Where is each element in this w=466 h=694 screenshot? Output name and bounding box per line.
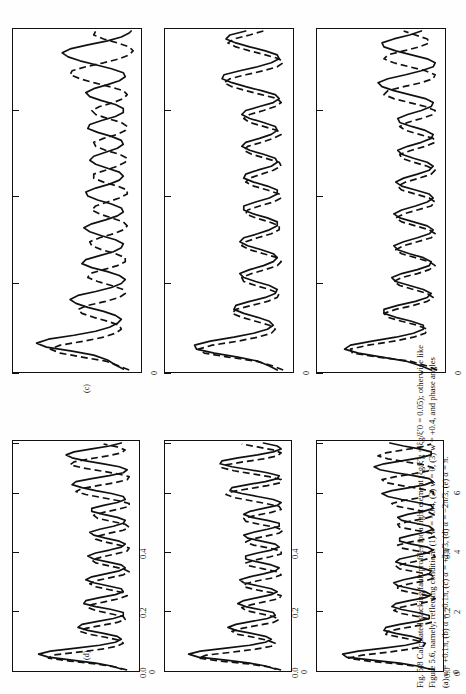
xlabel-depth-2: 2	[452, 610, 462, 614]
tick-bottom-left-1	[12, 671, 19, 672]
tick-top-right-4	[316, 110, 323, 111]
plot-curves-bottom-center	[165, 441, 291, 671]
tick-top-center-3	[164, 196, 171, 197]
caption-line-1: Fig. 5.8 Calculated stacking fault profi…	[414, 388, 426, 688]
caption-line-2: Figure 5.6, namely, reflecting condition…	[426, 388, 438, 688]
plot-panel-top-center	[164, 28, 294, 373]
ylabel-bottom-left-00: 0.0	[138, 667, 148, 678]
tick-bottom-right-3	[316, 552, 323, 553]
tick-top-left-4	[12, 110, 19, 111]
figure-caption: Fig. 5.8 Calculated stacking fault profi…	[414, 386, 451, 688]
plot-curves-bottom-left	[13, 441, 139, 671]
caption-line-3: (a) α = +0.1π, (b) α = −0.1π, (c) α = +2…	[439, 388, 451, 688]
plot-panel-bottom-center	[164, 440, 292, 672]
plot-curves-top-left	[13, 29, 141, 372]
ylabel-bottom-left-04: 0.4	[138, 548, 148, 559]
axis-zero-label-top-right: 0	[454, 371, 463, 375]
tick-top-center-4	[164, 110, 171, 111]
tick-top-left-2	[12, 283, 19, 284]
tick-top-center-2	[164, 283, 171, 284]
tick-bottom-center-5	[164, 443, 171, 444]
ylabel-bottom-center-00: 0.0	[290, 667, 300, 678]
axis-zero-label-bottom-left: 0	[148, 670, 157, 674]
panel-row-label-d: (d)	[82, 651, 91, 660]
tick-bottom-left-5	[12, 443, 19, 444]
xlabel-depth-6: 6	[452, 491, 462, 495]
tick-top-center-1	[164, 373, 171, 374]
tick-bottom-center-2	[164, 611, 171, 612]
plot-panel-top-right	[316, 28, 446, 373]
xlabel-depth-0: 0	[452, 672, 462, 676]
plot-panel-bottom-left	[12, 440, 140, 672]
tick-bottom-left-3	[12, 552, 19, 553]
tick-bottom-center-1	[164, 671, 171, 672]
ylabel-bottom-left-02: 0.2	[138, 607, 148, 618]
figure-page: 0 0 0 0 0 0 0.0 0.2 0.4 0.0 0.2 0.4 0.0 …	[0, 0, 466, 694]
tick-bottom-center-3	[164, 552, 171, 553]
tick-bottom-center-4	[164, 493, 171, 494]
ylabel-bottom-center-02: 0.2	[290, 607, 300, 618]
tick-top-right-2	[316, 283, 323, 284]
plot-curves-top-right	[317, 29, 445, 372]
tick-bottom-left-4	[12, 493, 19, 494]
tick-bottom-right-4	[316, 493, 323, 494]
tick-bottom-right-5	[316, 443, 323, 444]
tick-top-right-1	[316, 373, 323, 374]
xlabel-depth-4: 4	[452, 550, 462, 554]
tick-bottom-left-2	[12, 611, 19, 612]
axis-zero-label-bottom-center: 0	[300, 670, 309, 674]
axis-zero-label-top-center: 0	[302, 371, 311, 375]
tick-top-left-3	[12, 196, 19, 197]
tick-top-left-1	[12, 373, 19, 374]
tick-bottom-right-2	[316, 611, 323, 612]
tick-bottom-right-1	[316, 671, 323, 672]
ylabel-bottom-center-04: 0.4	[290, 548, 300, 559]
tick-top-right-3	[316, 196, 323, 197]
axis-zero-label-top-left: 0	[150, 371, 159, 375]
plot-curves-top-center	[165, 29, 293, 372]
plot-panel-top-left	[12, 28, 142, 373]
panel-row-label-c: (c)	[82, 384, 91, 393]
